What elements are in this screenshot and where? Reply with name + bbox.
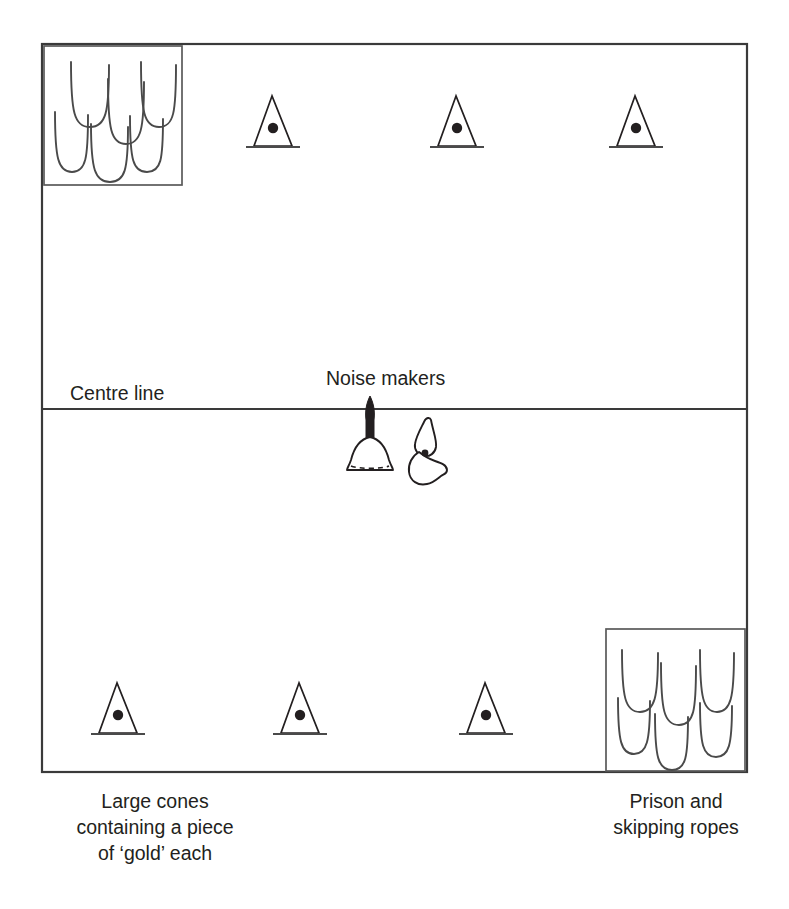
skipping-rope-icon [141, 62, 176, 127]
cone-icon [609, 96, 663, 147]
cones-store-box-outline [44, 46, 182, 185]
playground-diagram: Centre line Noise makers Large cones con… [0, 0, 789, 909]
skipping-rope-icon [108, 79, 144, 144]
skipping-rope-icon [661, 663, 696, 725]
cone-icon [91, 683, 145, 734]
right-caption: Prison and skipping ropes [613, 790, 739, 838]
left-caption-line-1: Large cones [101, 790, 209, 812]
cone-icon [246, 96, 300, 147]
left-caption: Large cones containing a piece of ‘gold’… [76, 790, 233, 864]
hand-bell-icon [347, 396, 393, 470]
skipping-rope-icon [55, 112, 88, 172]
left-caption-line-3: of ‘gold’ each [98, 842, 212, 864]
gold-piece-icon [452, 123, 462, 133]
diagram-root: Centre line Noise makers Large cones con… [0, 0, 789, 909]
cones-store-box [44, 46, 182, 185]
prison-box [606, 629, 745, 771]
gold-piece-icon [295, 710, 305, 720]
right-caption-line-1: Prison and [629, 790, 722, 812]
gold-piece-icon [268, 123, 278, 133]
whistle-icon [409, 418, 447, 484]
left-caption-line-2: containing a piece [76, 816, 233, 838]
skipping-rope-icon [91, 124, 128, 182]
cone-icon [273, 683, 327, 734]
cone-icon [459, 683, 513, 734]
centre-line-label: Centre line [70, 382, 164, 404]
skipping-rope-icon [71, 62, 109, 127]
noise-makers-label: Noise makers [326, 367, 445, 389]
cone-icon [430, 96, 484, 147]
gold-piece-icon [631, 123, 641, 133]
prison-box-outline [606, 629, 745, 771]
gold-piece-icon [113, 710, 123, 720]
right-caption-line-2: skipping ropes [613, 816, 739, 838]
gold-piece-icon [481, 710, 491, 720]
skipping-rope-icon [618, 698, 650, 754]
skipping-rope-icon [700, 650, 734, 712]
skipping-rope-icon [622, 650, 658, 712]
skipping-rope-icon [130, 116, 163, 172]
